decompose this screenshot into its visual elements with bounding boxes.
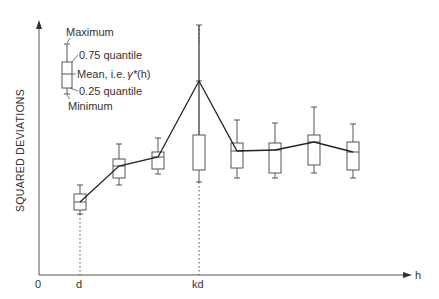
box-body: [152, 152, 164, 169]
box-body: [347, 142, 359, 170]
box-7d: [308, 107, 320, 173]
legend-q75: 0.75 quantile: [79, 49, 142, 61]
legend-leader-max: [67, 38, 70, 43]
box-d: [74, 185, 86, 214]
box-body: [269, 143, 281, 173]
legend-mean: Mean, i.e.γ*(h): [77, 68, 151, 80]
box-body: [193, 135, 205, 170]
box-body: [113, 159, 125, 178]
axes: h 0 d kd SQUARED DEVIATIONS: [14, 20, 421, 290]
legend-mean-text: Mean, i.e.: [77, 68, 125, 80]
legend-minimum: Minimum: [68, 100, 113, 112]
legend-maximum: Maximum: [66, 26, 114, 38]
box-5d: [231, 120, 243, 178]
tick-kd: kd: [192, 278, 204, 290]
y-axis-arrow-icon: [36, 20, 42, 29]
box-body: [231, 143, 243, 168]
legend-leader-q75: [72, 55, 78, 62]
boxplot-chart: h 0 d kd SQUARED DEVIATIONS Maximum 0.75…: [0, 0, 439, 299]
legend-leader-min: [67, 95, 70, 99]
legend-box: [62, 62, 72, 88]
origin-label: 0: [35, 278, 41, 290]
box-kd: [193, 25, 205, 182]
legend-leader-q25: [70, 88, 78, 91]
x-axis-arrow-icon: [403, 272, 412, 278]
x-axis-label: h: [415, 269, 421, 281]
legend-mean-arg: (h): [137, 68, 150, 80]
legend: Maximum 0.75 quantile Mean, i.e.γ*(h) 0.…: [62, 26, 151, 112]
reference-lines: [80, 25, 199, 275]
y-axis-label: SQUARED DEVIATIONS: [14, 89, 26, 212]
box-body: [308, 135, 320, 165]
legend-q25: 0.25 quantile: [79, 85, 142, 97]
tick-d: d: [76, 278, 82, 290]
